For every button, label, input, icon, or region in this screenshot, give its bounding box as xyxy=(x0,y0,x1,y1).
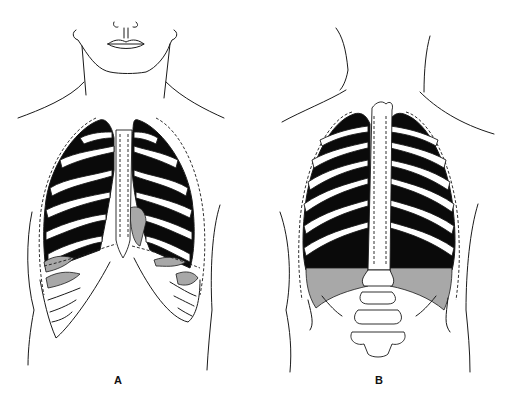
shoulder-left xyxy=(282,90,346,122)
heart-region xyxy=(130,207,146,246)
shoulder-right xyxy=(420,92,494,134)
back-torso-right xyxy=(466,204,478,372)
panel-a-label: A xyxy=(114,374,122,386)
back-left-lung xyxy=(299,112,370,330)
sternum xyxy=(116,130,132,258)
back-torso-left xyxy=(280,212,291,372)
back-right-lung xyxy=(388,112,459,332)
right-lung xyxy=(130,118,205,295)
torso-right-outline xyxy=(207,205,220,370)
neck-left xyxy=(336,28,348,90)
panel-a xyxy=(18,22,224,370)
panel-b-label: B xyxy=(375,374,383,386)
neck-right xyxy=(424,36,430,92)
torso-left-outline xyxy=(28,212,34,365)
face-outline xyxy=(18,22,224,118)
panel-b xyxy=(280,28,494,372)
anatomy-illustration xyxy=(0,0,512,402)
